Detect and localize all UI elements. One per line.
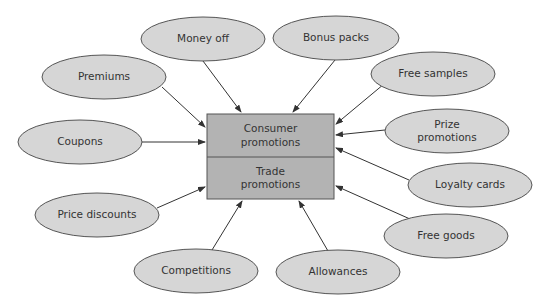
free-samples-node: Free samples [371,52,495,96]
trade-promotions-line-1: Trade [241,165,300,178]
consumer-promotions-box: Consumer promotions [207,114,334,157]
allowances-arrow [299,201,328,251]
trade-promotions-line-2: promotions [241,178,300,191]
premiums-label: Premiums [78,70,130,83]
loyalty-cards-label: Loyalty cards [435,178,505,191]
competitions-label: Competitions [161,264,231,277]
competitions-node: Competitions [134,249,258,293]
prize-promotions-arrow [336,130,385,135]
money-off-arrow [203,61,241,112]
loyalty-cards-node: Loyalty cards [408,163,532,207]
prize-promotions-label: promotions [417,131,476,144]
premiums-node: Premiums [42,55,166,99]
allowances-label: Allowances [309,265,368,278]
bonus-packs-label: Bonus packs [303,31,369,44]
allowances-node: Allowances [276,250,400,294]
competitions-arrow [212,201,242,250]
bonus-packs-arrow [293,60,335,112]
trade-promotions-box: Trade promotions [207,157,334,199]
price-discounts-arrow [157,187,205,208]
money-off-label: Money off [177,32,229,45]
coupons-node: Coupons [18,120,142,164]
price-discounts-label: Price discounts [57,208,136,221]
consumer-promotions-line-2: promotions [241,136,300,149]
free-goods-label: Free goods [417,229,474,242]
price-discounts-node: Price discounts [35,193,159,237]
free-goods-node: Free goods [384,214,508,258]
coupons-label: Coupons [57,135,103,148]
prize-promotions-label: Prize [417,118,476,131]
free-samples-label: Free samples [398,67,467,80]
consumer-promotions-line-1: Consumer [241,122,300,135]
prize-promotions-node: Prizepromotions [385,109,509,153]
premiums-arrow [162,87,205,127]
